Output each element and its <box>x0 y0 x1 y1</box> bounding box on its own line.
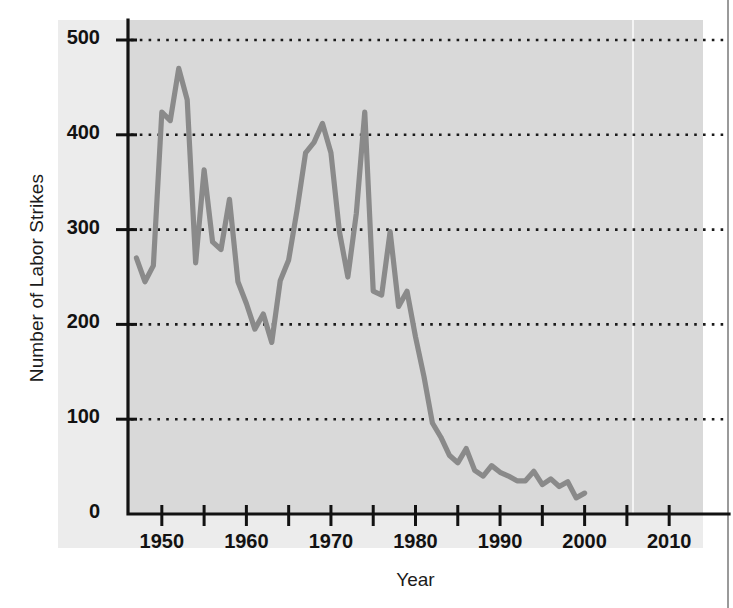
axis-lines <box>128 20 729 514</box>
xtick-label-2000: 2000 <box>550 530 620 553</box>
ytick-label-200: 200 <box>44 310 100 333</box>
chart-canvas <box>0 0 733 608</box>
gridlines-group <box>131 40 729 419</box>
ytick-label-400: 400 <box>44 121 100 144</box>
xtick-label-1990: 1990 <box>465 530 535 553</box>
xtick-label-1960: 1960 <box>211 530 281 553</box>
xtick-label-2010: 2010 <box>634 530 704 553</box>
ytick-label-300: 300 <box>44 216 100 239</box>
tick-marks-group <box>116 40 669 526</box>
data-line-series <box>136 68 584 497</box>
labor-strikes-figure: 0100200300400500 19501960197019801990200… <box>0 0 733 608</box>
ytick-label-500: 500 <box>44 26 100 49</box>
y-axis-title: Number of Labor Strikes <box>26 128 48 428</box>
xtick-label-1950: 1950 <box>127 530 197 553</box>
xtick-label-1970: 1970 <box>296 530 366 553</box>
x-axis-title: Year <box>128 569 703 591</box>
ytick-label-0: 0 <box>44 500 100 523</box>
ytick-label-100: 100 <box>44 405 100 428</box>
xtick-label-1980: 1980 <box>381 530 451 553</box>
